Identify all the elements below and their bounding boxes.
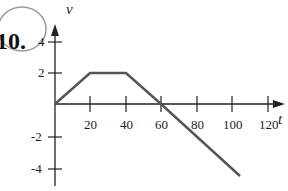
y-tick-label-2: 2 (38, 66, 45, 79)
x-axis-label: t (278, 112, 282, 127)
y-tick-label-4: 4 (38, 35, 45, 48)
x-tick-label-40: 40 (120, 118, 133, 131)
y-axis-label: v (66, 2, 73, 17)
chart-canvas (0, 0, 288, 191)
x-tick-label-80: 80 (191, 118, 204, 131)
x-tick-label-60: 60 (155, 118, 168, 131)
x-tick-label-20: 20 (84, 118, 97, 131)
x-tick-label-100: 100 (223, 118, 243, 131)
problem-number: 10. (0, 28, 26, 55)
x-tick-label-120: 120 (259, 118, 279, 131)
y-tick-label-neg2: -2 (31, 130, 42, 143)
y-axis-arrow-icon (51, 24, 59, 36)
x-axis-arrow-icon (273, 100, 285, 108)
velocity-line (55, 73, 240, 176)
y-tick-label-neg4: -4 (31, 162, 42, 175)
